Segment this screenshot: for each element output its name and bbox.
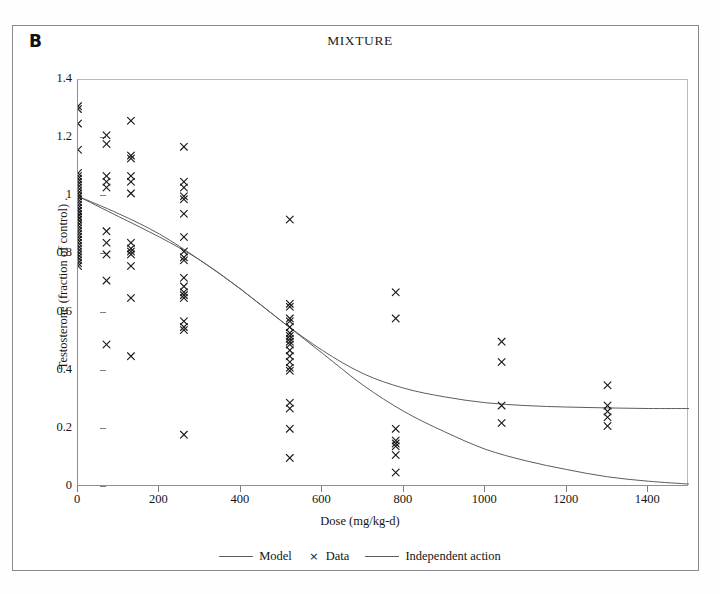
series-line-model	[78, 196, 689, 408]
x-tick-label: 600	[291, 493, 351, 506]
legend-line-swatch	[365, 556, 399, 557]
x-tick-label: 1400	[617, 493, 677, 506]
legend-item-independent-action: Independent action	[365, 549, 500, 564]
x-tick-label: 1000	[454, 493, 514, 506]
x-tick-label: 800	[373, 493, 433, 506]
plot-area	[77, 79, 688, 486]
legend-item-data: ×Data	[308, 549, 350, 564]
x-tick-label: 200	[128, 493, 188, 506]
figure-container: B MIXTURE Testosterone (fraction of cont…	[0, 0, 720, 594]
x-tick-label: 0	[47, 493, 107, 506]
x-tick-label: 400	[210, 493, 270, 506]
legend-label: Data	[326, 549, 350, 564]
legend-line-swatch	[219, 556, 253, 557]
legend-cross-marker-icon: ×	[308, 550, 320, 563]
chart-legend: Model×DataIndependent action	[0, 549, 720, 564]
legend-label: Model	[259, 549, 292, 564]
plot-svg	[78, 80, 689, 487]
legend-label: Independent action	[405, 549, 500, 564]
series-line-independent-action	[78, 196, 689, 484]
legend-item-model: Model	[219, 549, 292, 564]
series-scatter-data	[78, 103, 611, 476]
x-axis-title: Dose (mg/kg-d)	[0, 514, 720, 529]
x-tick-label: 1200	[536, 493, 596, 506]
